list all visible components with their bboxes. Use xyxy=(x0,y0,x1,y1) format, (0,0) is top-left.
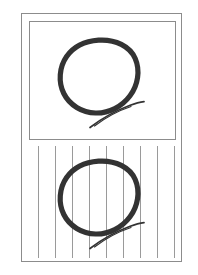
ruling-line xyxy=(38,146,39,258)
ruling-line xyxy=(89,146,90,258)
ruling-line xyxy=(55,146,56,258)
ruling-line xyxy=(140,146,141,258)
ruled-background-panel xyxy=(22,141,181,261)
figure-canvas xyxy=(0,0,198,275)
ruling-line xyxy=(157,146,158,258)
plain-background-panel xyxy=(29,21,176,140)
ruling-line xyxy=(123,146,124,258)
ruling-line xyxy=(174,146,175,258)
ruling-line xyxy=(72,146,73,258)
ruling-line xyxy=(106,146,107,258)
